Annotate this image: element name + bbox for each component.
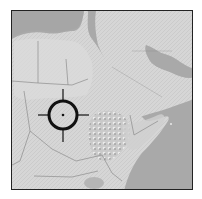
map-view[interactable] bbox=[11, 10, 193, 190]
crosshair-target-icon[interactable] bbox=[12, 11, 193, 190]
target-center-dot bbox=[62, 114, 65, 117]
